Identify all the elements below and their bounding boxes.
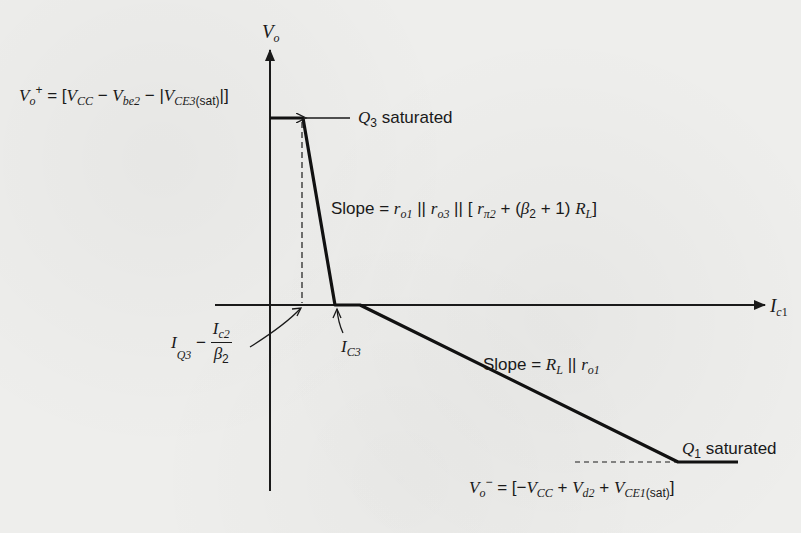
transfer-characteristic-plot	[0, 0, 801, 533]
iq3-fraction: Ic2 β2	[211, 320, 232, 365]
vo-minus-expression: Vo− = [−VCC + Vd2 + VCE1(sat)]	[469, 476, 674, 499]
slope-rl-label: Slope = RL || ro1	[483, 356, 600, 376]
iq3-expression: IQ3 − Ic2 β2	[171, 320, 232, 365]
vo-plus-expression: Vo+ = [VCC − Vbe2 − |VCE3(sat)|]	[19, 84, 229, 107]
slope-active-region-label: Slope = ro1 || ro3 || [ rπ2 + (β2 + 1) R…	[331, 200, 597, 220]
ic3-label: IC3	[341, 338, 361, 358]
q3-saturated-label: Q3 saturated	[358, 109, 453, 129]
q1-saturated-label: Q1 saturated	[682, 440, 777, 460]
x-axis-label: Ic1	[770, 296, 788, 318]
y-axis-label: Vo	[262, 22, 280, 44]
iq3-pointer-arrow	[250, 309, 300, 347]
transfer-curve	[270, 118, 738, 462]
